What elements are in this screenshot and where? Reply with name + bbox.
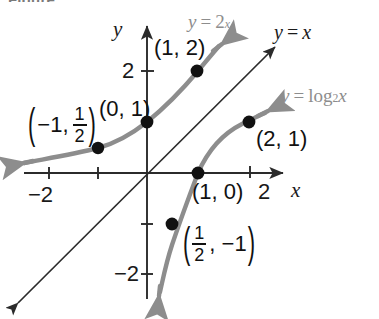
point-label-log-half: ( 1 2 , −1 ) [183, 224, 255, 264]
fraction-denominator: 2 [192, 245, 206, 264]
curve-label-identity-variable: y [274, 22, 283, 42]
curve-label-logarithmic: y = log 2 x [281, 86, 347, 105]
x-tick-label-minus2: −2 [28, 184, 53, 206]
y-tick-label-2: 2 [122, 60, 134, 82]
point-label-log-half-close-paren: ) [248, 223, 255, 265]
y-axis-label: y [113, 19, 122, 40]
y-axis [141, 26, 154, 299]
curve-label-log-base: log [308, 86, 332, 105]
point-label-exp-neg1-xvalue: −1, [35, 114, 71, 136]
fraction-denominator: 2 [73, 126, 87, 145]
curve-label-identity-equals: = [283, 22, 302, 42]
curve-label-log-variable: y [281, 86, 289, 105]
point-exp-one [191, 65, 204, 78]
curve-label-identity-base: x [302, 22, 311, 42]
curve-label-exponential: y = 2 x [188, 12, 230, 31]
fraction-numerator: 1 [192, 224, 206, 243]
curve-label-exp-base: 2 [215, 12, 225, 31]
point-label-log-half-fraction: 1 2 [192, 224, 206, 264]
logarithmic-arrow-upright [258, 111, 268, 116]
logarithmic-arrow-down [159, 286, 160, 296]
y-tick-label-minus2: −2 [114, 263, 139, 285]
point-label-exp-neg1: ( −1, 1 2 ) [28, 105, 96, 145]
point-label-exp-neg1-close-paren: ) [88, 104, 96, 146]
point-label-exp-neg1-fraction: 1 2 [73, 105, 87, 145]
point-label-exp-zero: (0, 1) [99, 98, 150, 120]
point-label-log-one: (1, 0) [192, 181, 243, 203]
point-log-one [192, 167, 205, 180]
point-label-exp-one: (1, 2) [154, 37, 205, 59]
curve-label-log-argument: x [338, 86, 346, 105]
figure-container: Figure [0, 0, 379, 319]
point-label-log-two: (2, 1) [256, 128, 307, 150]
point-label-log-half-yvalue: , −1 [207, 233, 247, 255]
curve-label-identity: y = x [274, 22, 311, 42]
point-log-half [166, 218, 179, 231]
point-label-exp-neg1-open-paren: ( [28, 104, 35, 146]
curve-label-exp-variable: y [188, 12, 196, 31]
x-tick-label-2: 2 [258, 181, 270, 203]
exponential-arrow-upright [213, 44, 222, 51]
exponential-arrow-left [24, 161, 33, 163]
x-axis-label: x [291, 180, 300, 201]
point-label-log-half-open-paren: ( [183, 223, 190, 265]
fraction-numerator: 1 [73, 105, 87, 124]
point-log-two [243, 116, 256, 129]
curve-label-exp-equals: = [196, 12, 215, 31]
curve-label-log-equals: = [289, 86, 308, 105]
